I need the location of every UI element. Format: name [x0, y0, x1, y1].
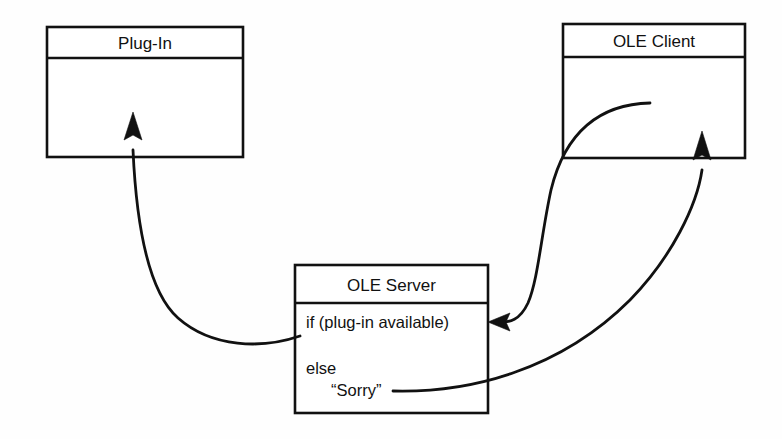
node-ole-server-line-else: else	[306, 360, 336, 377]
node-ole-client-title: OLE Client	[563, 33, 745, 50]
diagram-canvas: Plug-In OLE Client OLE Server if (plug-i…	[0, 0, 782, 439]
node-ole-server-line-sorry: “Sorry”	[331, 382, 381, 399]
node-ole-server-title: OLE Server	[295, 277, 488, 294]
connector-server-to-plugin	[133, 150, 300, 344]
node-plugin-title: Plug-In	[47, 35, 243, 52]
diagram-vector-layer	[0, 0, 782, 439]
node-ole-server-line-if: if (plug-in available)	[306, 314, 449, 331]
